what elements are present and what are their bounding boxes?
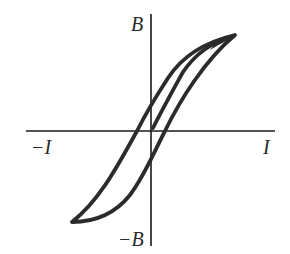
y-axis-bottom-label: −B <box>118 229 144 249</box>
hysteresis-diagram <box>0 0 290 254</box>
y-axis-top-label: B <box>131 14 143 34</box>
x-axis-right-label: I <box>263 137 270 157</box>
x-axis-left-label: −I <box>31 137 51 157</box>
